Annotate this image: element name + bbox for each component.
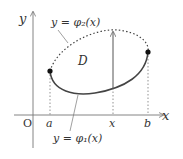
tick-x-label: x <box>109 117 116 130</box>
upper-curve <box>50 30 148 71</box>
lower-curve-label: y = φ₁(x) <box>52 132 102 145</box>
tick-b-label: b <box>144 117 151 130</box>
region-label: D <box>77 54 88 68</box>
origin-label: O <box>23 117 32 130</box>
leader-lower <box>70 95 78 131</box>
x-axis-label: x <box>162 108 170 123</box>
tick-a-label: a <box>46 117 53 130</box>
point-b <box>145 49 150 54</box>
region-diagram: y x O a x b D y = φ₂(x) y = φ₁(x) <box>0 0 183 159</box>
y-axis-label: y <box>18 11 27 26</box>
lower-curve <box>50 52 148 94</box>
point-a <box>47 68 52 73</box>
leader-upper <box>58 30 68 43</box>
upper-curve-label: y = φ₂(x) <box>50 16 100 29</box>
